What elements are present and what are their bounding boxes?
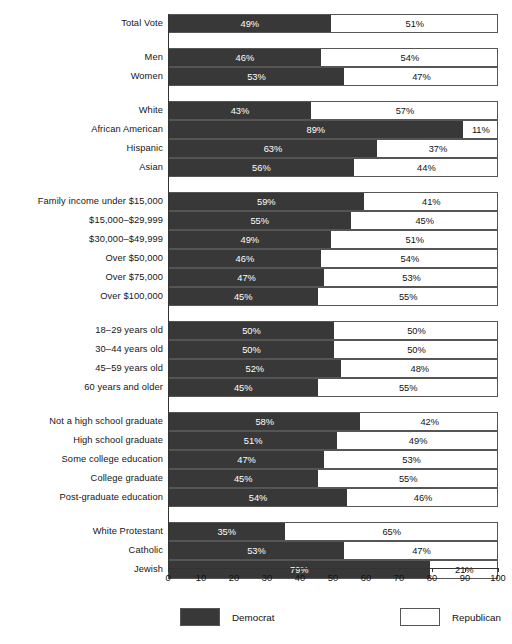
- bar-track: 53%47%: [168, 541, 498, 560]
- chart-row: Women53%47%: [0, 67, 512, 86]
- row-label: High school graduate: [73, 431, 163, 450]
- bar-value-democrat: 49%: [169, 231, 331, 250]
- axis-tick-label: 0: [165, 573, 170, 583]
- bar-track: 52%48%: [168, 359, 498, 378]
- row-label: 18–29 years old: [95, 321, 163, 340]
- bar-value-republican: 55%: [318, 470, 500, 489]
- row-label: 45–59 years old: [95, 359, 163, 378]
- chart-row: Asian56%44%: [0, 158, 512, 177]
- chart-row: High school graduate51%49%: [0, 431, 512, 450]
- bar-track: 47%53%: [168, 450, 498, 469]
- axis-tick-label: 100: [490, 573, 506, 583]
- bar-track: 46%54%: [168, 48, 498, 67]
- axis-tick: [498, 568, 499, 572]
- chart-row: 18–29 years old50%50%: [0, 321, 512, 340]
- bar-track: 45%55%: [168, 287, 498, 306]
- row-label: $15,000–$29,999: [89, 211, 163, 230]
- bar-value-republican: 49%: [337, 432, 499, 451]
- bar-value-republican: 46%: [347, 489, 499, 508]
- row-label: Over $75,000: [105, 268, 163, 287]
- chart-row: $30,000–$49,99949%51%: [0, 230, 512, 249]
- legend-label-republican: Republican: [452, 612, 501, 623]
- bar-value-republican: 53%: [324, 269, 499, 288]
- legend-item-democrat: Democrat: [180, 606, 274, 628]
- bar-value-republican: 48%: [341, 360, 499, 379]
- row-label: Women: [131, 67, 163, 86]
- axis-tick: [465, 568, 466, 572]
- row-label: Asian: [139, 158, 163, 177]
- chart-row: $15,000–$29,99955%45%: [0, 211, 512, 230]
- bar-track: 45%55%: [168, 469, 498, 488]
- row-label: African American: [91, 120, 163, 139]
- legend-item-republican: Republican: [400, 606, 501, 628]
- bar-value-democrat: 50%: [169, 341, 334, 360]
- bar-track: 89%11%: [168, 120, 498, 139]
- bar-value-republican: 54%: [321, 49, 499, 68]
- row-label: Over $100,000: [100, 287, 163, 306]
- legend-label-democrat: Democrat: [232, 612, 274, 623]
- bar-track: 43%57%: [168, 101, 498, 120]
- chart-row: 30–44 years old50%50%: [0, 340, 512, 359]
- chart-row: Family income under $15,00059%41%: [0, 192, 512, 211]
- bar-value-republican: 55%: [318, 288, 500, 307]
- bar-value-democrat: 46%: [169, 49, 321, 68]
- chart-row: Men46%54%: [0, 48, 512, 67]
- axis-tick: [300, 568, 301, 572]
- axis-tick-label: 70: [394, 573, 404, 583]
- axis-tick-label: 20: [229, 573, 239, 583]
- row-label: Total Vote: [121, 14, 163, 33]
- bar-value-republican: 37%: [377, 140, 499, 159]
- bar-value-democrat: 89%: [169, 121, 463, 140]
- bar-value-democrat: 53%: [169, 542, 344, 561]
- chart-row: Over $50,00046%54%: [0, 249, 512, 268]
- bar-value-republican: 53%: [324, 451, 499, 470]
- chart-row: White43%57%: [0, 101, 512, 120]
- bar-track: 49%51%: [168, 230, 498, 249]
- axis-tick: [234, 568, 235, 572]
- stacked-bar-chart: Total Vote49%51%Men46%54%Women53%47%Whit…: [0, 0, 512, 644]
- legend-swatch-republican: [400, 608, 440, 626]
- bar-track: 50%50%: [168, 340, 498, 359]
- row-label: White: [139, 101, 163, 120]
- chart-legend: Democrat Republican: [0, 606, 512, 630]
- bar-track: 51%49%: [168, 431, 498, 450]
- row-label: 30–44 years old: [95, 340, 163, 359]
- row-label: 60 years and older: [84, 378, 163, 397]
- chart-row: 45–59 years old52%48%: [0, 359, 512, 378]
- chart-row: White Protestant35%65%: [0, 522, 512, 541]
- axis-tick-label: 30: [262, 573, 272, 583]
- chart-row: Over $100,00045%55%: [0, 287, 512, 306]
- chart-row: College graduate45%55%: [0, 469, 512, 488]
- chart-row: Total Vote49%51%: [0, 14, 512, 33]
- bar-track: 45%55%: [168, 378, 498, 397]
- bar-value-democrat: 56%: [169, 159, 354, 178]
- bar-value-democrat: 54%: [169, 489, 347, 508]
- axis-tick: [168, 568, 169, 572]
- bar-value-republican: 55%: [318, 379, 500, 398]
- chart-row: Hispanic63%37%: [0, 139, 512, 158]
- row-label: College graduate: [91, 469, 163, 488]
- bar-track: 58%42%: [168, 412, 498, 431]
- axis-tick-label: 40: [295, 573, 305, 583]
- bar-value-democrat: 59%: [169, 193, 364, 212]
- bar-value-republican: 45%: [351, 212, 500, 231]
- row-label: Catholic: [129, 541, 163, 560]
- bar-track: 50%50%: [168, 321, 498, 340]
- bar-track: 59%41%: [168, 192, 498, 211]
- axis-tick-label: 80: [427, 573, 437, 583]
- bar-value-republican: 51%: [331, 15, 499, 34]
- bar-value-democrat: 55%: [169, 212, 351, 231]
- chart-row: 60 years and older45%55%: [0, 378, 512, 397]
- axis-tick: [267, 568, 268, 572]
- axis-tick-label: 90: [460, 573, 470, 583]
- row-label: Men: [145, 48, 163, 67]
- bar-value-republican: 41%: [364, 193, 499, 212]
- axis-tick: [432, 568, 433, 572]
- axis-tick: [333, 568, 334, 572]
- bar-value-democrat: 45%: [169, 379, 318, 398]
- bar-value-republican: 11%: [463, 121, 499, 140]
- bar-value-democrat: 43%: [169, 102, 311, 121]
- bar-track: 63%37%: [168, 139, 498, 158]
- bar-value-democrat: 58%: [169, 413, 360, 432]
- bar-value-republican: 50%: [334, 341, 499, 360]
